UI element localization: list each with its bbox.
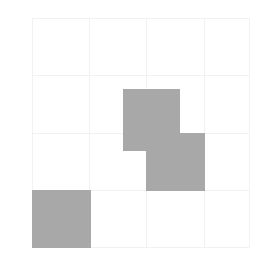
figure-canvas: [0, 0, 276, 263]
gridline-horizontal: [32, 75, 250, 76]
heatmap-cell: [146, 133, 205, 191]
plot-area: [32, 18, 250, 248]
gridline-horizontal: [32, 18, 250, 19]
heatmap-cell: [32, 190, 91, 248]
